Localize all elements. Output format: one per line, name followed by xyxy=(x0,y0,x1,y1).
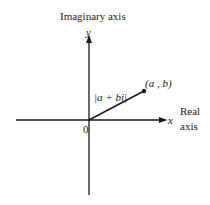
modulus-label: |a + bi| xyxy=(94,92,127,103)
real-axis-title-line1: Real xyxy=(180,106,200,117)
y-axis-symbol: y xyxy=(86,27,91,38)
real-axis-title-line2: axis xyxy=(180,121,198,132)
x-axis-symbol: x xyxy=(168,115,173,126)
point-a-b-dot xyxy=(142,89,146,93)
imaginary-axis-title: Imaginary axis xyxy=(60,11,126,22)
origin-label: 0 xyxy=(83,124,89,135)
complex-plane-diagram: Imaginary axis y x Real axis 0 (a , b) |… xyxy=(0,0,210,205)
point-label: (a , b) xyxy=(145,78,172,89)
